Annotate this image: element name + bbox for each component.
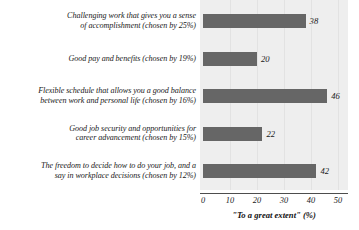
bar-row: Challenging work that gives you a senseo… [0,2,359,40]
category-label: Good pay and benefits (chosen by 19%) [2,54,196,64]
category-label-line: of accomplishment (chosen by 25%) [2,21,196,31]
category-label-line: Flexible schedule that allows you a good… [2,87,196,97]
bar-value-label: 42 [320,166,329,176]
category-label: Flexible schedule that allows you a good… [2,87,196,106]
category-label: The freedom to decide how to do your job… [2,162,196,181]
bar-row: Good pay and benefits (chosen by 19%)20 [0,40,359,78]
bar [203,52,257,66]
x-axis-title: "To a great extent" (%) [200,210,348,220]
category-label-line: Good job security and opportunities for [2,124,196,134]
bar-value-label: 22 [266,129,275,139]
category-label-line: career advancement (chosen by 15%) [2,134,196,144]
category-label-line: Challenging work that gives you a sense [2,11,196,21]
bar [203,89,327,103]
horizontal-bar-chart: Challenging work that gives you a senseo… [0,0,359,230]
bar-rows: Challenging work that gives you a senseo… [0,0,359,190]
x-tick-label: 10 [226,196,234,205]
category-label-line: The freedom to decide how to do your job… [2,162,196,172]
category-label: Good job security and opportunities forc… [2,124,196,143]
category-label: Challenging work that gives you a senseo… [2,11,196,30]
bar-value-label: 46 [331,91,340,101]
bar-value-label: 38 [310,16,319,26]
x-tick-label: 50 [334,196,342,205]
x-axis-line [200,193,348,194]
bar-row: The freedom to decide how to do your job… [0,152,359,190]
category-label-line: say in workplace decisions (chosen by 12… [2,171,196,181]
bar-row: Good job security and opportunities forc… [0,115,359,153]
category-label-line: between work and personal life (chosen b… [2,96,196,106]
bar [203,164,316,178]
x-tick-label: 40 [307,196,315,205]
x-tick-label: 30 [280,196,288,205]
x-tick-label: 20 [253,196,261,205]
x-tick-label: 0 [201,196,205,205]
bar-row: Flexible schedule that allows you a good… [0,77,359,115]
bar-value-label: 20 [261,54,270,64]
bar [203,127,262,141]
bar [203,14,306,28]
